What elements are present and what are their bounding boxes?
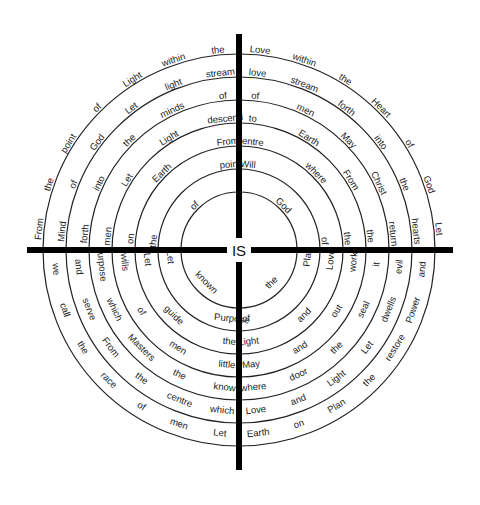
ring-word: of [135,399,148,413]
ring-word: the [171,366,188,382]
ring-word: the [365,229,377,243]
ring-word: the [41,176,56,192]
ring-word: of [90,101,104,115]
center-label: IS [232,242,246,259]
ring-word: the [222,335,236,347]
ring-word: call [58,301,73,318]
ring-word: seal [354,299,371,319]
ring-word: on [292,417,306,431]
ring-word: Let [358,338,375,355]
ring-word: From [32,217,45,240]
ring-word: of [218,89,227,101]
ring-word: to [248,112,257,124]
ring-word: Let [213,426,228,438]
ring-word: men [101,226,114,246]
ring-word: of [251,89,260,101]
ring-word: Love [245,403,267,416]
ring-word: Let [142,252,154,267]
ring-word: on [124,233,136,245]
ring-word: the [360,371,377,388]
ring-word: the [263,274,280,291]
ring-word: the [133,369,150,386]
ring-word: Masters [126,331,158,363]
ring-word: men [168,338,190,357]
ring-word: Love [249,43,271,56]
ring-word: work [346,251,359,273]
ring-word: and [294,305,313,324]
ring-word: minds [158,99,186,120]
ring-word: God [421,174,437,195]
ring-word: Earth [297,127,322,148]
ring-word: we [50,262,62,276]
ring-word: the [342,231,354,245]
ring-word: men [169,415,190,431]
ring-word: and [289,391,308,407]
ring-word: Earth [246,426,270,439]
ring-word: of [319,236,331,245]
horizontal-cross-bar-left [27,247,227,253]
ring-word: the [328,339,345,356]
ring-word: and [415,261,428,278]
ring-word: serve [80,296,99,322]
ring-word: stream [289,74,320,95]
ring-word: which [209,403,235,417]
ring-word: the [147,234,159,248]
ring-word: Will [240,158,256,171]
ring-word: the [337,71,354,87]
ring-word: into [90,174,107,193]
ring-word: May [241,357,260,370]
ring-word: of [187,198,201,212]
ring-word: out [328,302,345,319]
ring-word: May [339,130,360,151]
ring-word: forth [78,224,91,244]
vertical-cross-bar-bottom [236,262,242,470]
ring-word: of [135,304,149,317]
ring-word: God [87,132,107,153]
ring-word: where [239,380,267,394]
ring-word: love [248,66,266,79]
ring-word: the [211,43,225,55]
ring-word: into [372,133,390,152]
ring-word: Mind [55,221,68,243]
ring-word: and [73,258,86,275]
ring-word: From [100,335,122,359]
ring-word: little [218,358,236,371]
ring-word: within [290,50,317,69]
ring-word: within [159,50,186,69]
ring-word: evil [392,259,404,274]
ring-word: wills [119,251,132,271]
ring-word: Purpose [214,311,250,326]
ring-word: From [216,134,239,147]
horizontal-cross-bar-right [251,247,453,253]
ring-word: Power [403,295,422,324]
ring-word: the [397,176,412,192]
ring-word: From [341,167,362,192]
ring-word: God [274,195,294,215]
ring-word: Christ [369,169,390,196]
ring-word: know [213,380,236,393]
ring-word: where [303,159,330,186]
ring-word: Plan [325,396,347,415]
ring-word: Let [433,222,445,237]
ring-word: Let [118,171,135,188]
ring-word: restore [382,332,407,363]
great-invocation-circle-diagram: ofGodtheknownthepointWillofPlanofPurpose… [0,0,480,505]
ring-word: door [287,365,309,383]
ring-word: the [120,131,137,148]
ring-word: known [193,269,220,296]
vertical-cross-bar-top [236,34,242,238]
ring-word: and [290,338,309,356]
ring-word: Let [122,99,139,116]
ring-word: of [403,137,417,150]
ring-word: the [75,339,91,356]
ring-word: light [163,76,184,93]
ring-word: it [370,261,381,267]
